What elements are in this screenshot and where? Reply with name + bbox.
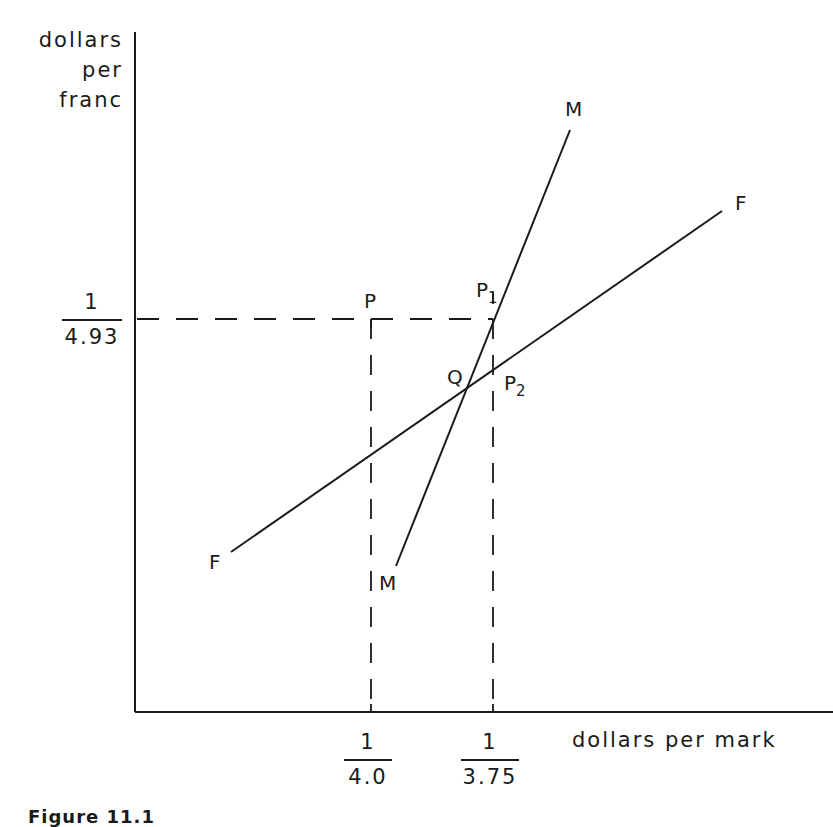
x-axis-label: dollars per mark: [572, 730, 777, 751]
y-tick-numerator: 1: [62, 292, 122, 313]
fraction-bar: [461, 759, 519, 761]
y-axis-label-line3: franc: [0, 90, 123, 111]
x-tick-numerator: 1: [344, 732, 392, 753]
figure-caption: Figure 11.1: [28, 806, 155, 827]
x-tick-fraction-3-75: 1 3.75: [461, 732, 519, 788]
x-tick-denominator: 4.0: [348, 765, 387, 789]
x-tick-numerator: 1: [461, 732, 519, 753]
fraction-bar: [344, 759, 392, 761]
point-q-label: Q: [447, 367, 463, 387]
point-p1-label: P1: [476, 280, 498, 300]
x-tick-fraction-4: 1 4.0: [344, 732, 392, 788]
curve-m: [396, 130, 570, 566]
point-p-label: P: [364, 291, 376, 311]
curve-m-label-bottom: M: [379, 573, 396, 593]
y-axis-label-line2: per: [0, 60, 123, 81]
x-tick-denominator: 3.75: [463, 765, 518, 789]
point-p2-base: P: [504, 371, 516, 395]
y-tick-denominator: 4.93: [65, 325, 120, 349]
point-p2-subscript: 2: [516, 382, 526, 400]
point-p1-base: P: [476, 278, 488, 302]
y-axis-label-line1: dollars: [0, 30, 123, 51]
curve-m-label-top: M: [565, 99, 582, 119]
curve-f-label-bottom: F: [209, 552, 221, 572]
point-p2-label: P2: [504, 373, 526, 393]
point-p1-subscript: 1: [488, 289, 498, 307]
y-tick-fraction: 1 4.93: [62, 292, 122, 348]
curve-f: [231, 211, 722, 552]
fraction-bar: [62, 319, 122, 321]
curve-f-label-top: F: [735, 193, 747, 213]
